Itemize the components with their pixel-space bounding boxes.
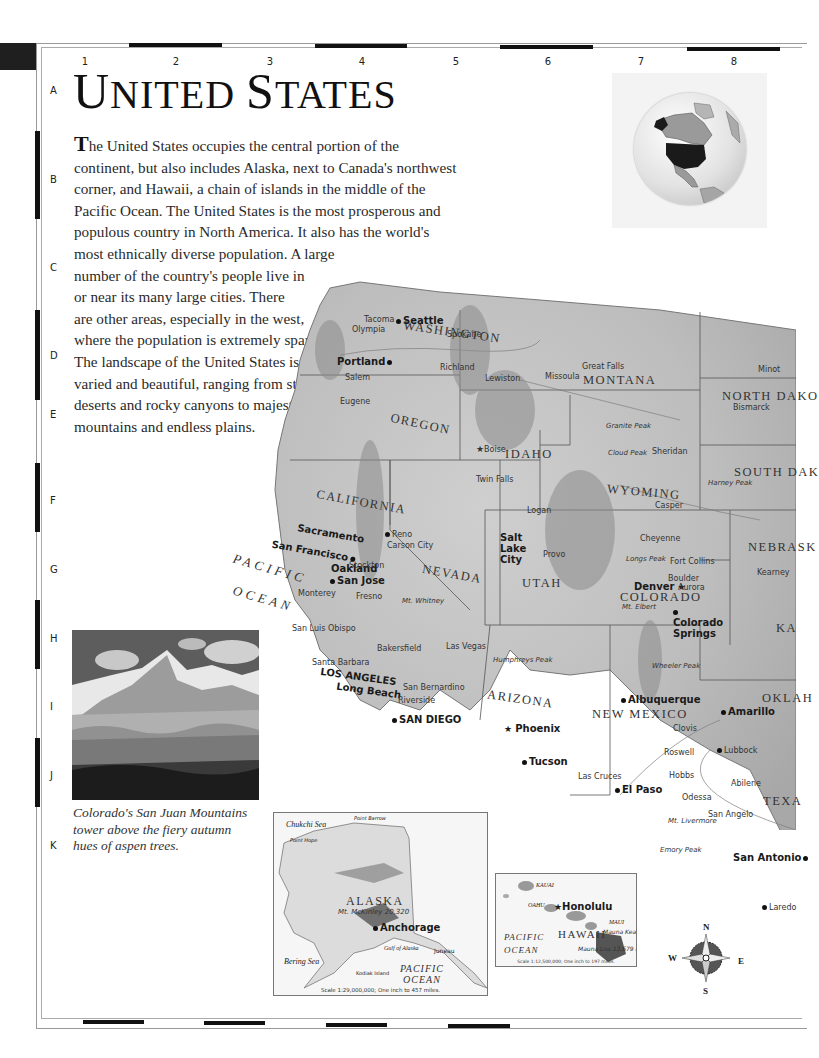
grid-row-c: C: [50, 262, 57, 273]
hawaii-inset-map: KAUAI OAHU ★Honolulu MAUI HAWAII PACIFIC…: [495, 873, 637, 967]
scale-bar-left-3: [35, 463, 40, 532]
city-abilene: Abilene: [731, 780, 761, 788]
grid-row-h: H: [50, 633, 58, 644]
alaska-scale-text: Scale 1:29,000,000; One inch to 457 mile…: [274, 987, 487, 993]
intro-line: populous country in North America. It al…: [74, 221, 454, 243]
city-olympia: Olympia: [352, 326, 385, 334]
bering-sea-label: Bering Sea: [284, 958, 319, 966]
page-title: UNITED STATES: [73, 66, 397, 116]
state-label-nebraska: NEBRASK: [748, 541, 817, 554]
grid-row-g: G: [50, 564, 58, 575]
city-great-falls: Great Falls: [582, 363, 624, 371]
city-odessa: Odessa: [682, 794, 712, 802]
scale-bar-bottom-1: [83, 1020, 144, 1024]
city-twin-falls: Twin Falls: [476, 476, 513, 484]
state-label-idaho: IDAHO: [505, 448, 553, 461]
peak-wheeler: Wheeler Peak: [652, 663, 700, 670]
peak-mt-elbert: Mt. Elbert: [622, 604, 656, 611]
point-barrow-label: Point Barrow: [354, 816, 386, 821]
city-salem: Salem: [345, 374, 370, 382]
city-bismarck: Bismarck: [733, 404, 770, 412]
city-amarillo: Amarillo: [721, 707, 775, 717]
city-riverside: Riverside: [398, 697, 435, 705]
city-lewiston: Lewiston: [485, 375, 520, 383]
san-juan-mountains-photo: [72, 630, 259, 800]
grid-column-8: 8: [724, 56, 744, 67]
city-casper: Casper: [655, 502, 683, 510]
city-fort-collins: Fort Collins: [670, 558, 715, 566]
locator-globe-panel: [612, 73, 767, 228]
grid-column-5: 5: [446, 56, 466, 67]
city-tacoma: Tacoma: [364, 316, 394, 324]
state-label-new-mexico: NEW MEXICO: [592, 708, 688, 721]
city-san-bernardino: San Bernardino: [403, 684, 465, 692]
scale-bar-top-2: [315, 44, 407, 48]
scale-bar-bottom-2: [204, 1021, 265, 1025]
city-logan: Logan: [527, 507, 551, 515]
kauai-label: KAUAI: [536, 882, 554, 888]
grid-row-a: A: [50, 85, 57, 96]
gulf-of-alaska-label: Gulf of Alaska: [384, 945, 419, 951]
city-colorado-springs: Colorado Springs: [673, 606, 729, 639]
hawaii-scale-text: Scale 1:12,500,000; One inch to 197 mile…: [496, 959, 636, 964]
grid-row-f: F: [50, 495, 56, 506]
intro-line: corner, and Hawaii, a chain of islands i…: [74, 178, 454, 200]
grid-row-b: B: [50, 174, 57, 185]
city-minot: Minot: [758, 366, 780, 374]
city-anchorage: Anchorage: [373, 923, 440, 933]
peak-mt-whitney: Mt. Whitney: [402, 598, 444, 605]
city-albuquerque: Albuquerque: [621, 695, 701, 705]
intro-line: The United States occupies the central p…: [74, 133, 454, 157]
city-sheridan: Sheridan: [652, 448, 688, 456]
alaska-pacific-ocean-label: PACIFIC OCEAN: [392, 963, 452, 985]
scale-bar-top-3: [500, 45, 593, 49]
city-monterey: Monterey: [298, 590, 336, 598]
grid-column-7: 7: [631, 56, 651, 67]
hawaii-pacific-ocean-label: PACIFICOCEAN: [504, 931, 554, 957]
intro-line: most ethnically diverse population. A la…: [74, 243, 454, 265]
state-label-utah: UTAH: [522, 577, 562, 590]
mauna-kea-label: Mauna Kea: [603, 929, 636, 935]
grid-row-i: I: [50, 701, 53, 712]
city-carson-city: Carson City: [387, 542, 433, 550]
compass-east-label: E: [738, 956, 744, 966]
city-spokane: Spokane: [447, 331, 481, 339]
city-provo: Provo: [543, 551, 565, 559]
city-roswell: Roswell: [664, 749, 694, 757]
peak-harney: Harney Peak: [708, 480, 752, 487]
globe-continents-icon: [634, 93, 746, 205]
city-cheyenne: Cheyenne: [640, 535, 680, 543]
city-santa-barbara: Santa Barbara: [312, 659, 369, 667]
city-richland: Richland: [440, 364, 475, 372]
peak-humphreys: Humphreys Peak: [493, 657, 552, 664]
maui-label: MAUI: [609, 919, 624, 925]
city-el-paso: El Paso: [615, 785, 662, 795]
peak-cloud: Cloud Peak: [608, 450, 647, 457]
compass-rose: N S W E: [676, 928, 736, 988]
compass-rose-icon: [676, 928, 736, 988]
city-fresno: Fresno: [356, 593, 382, 601]
kodiak-island-label: Kodiak Island: [356, 971, 389, 976]
scale-bar-left-5: [35, 738, 40, 807]
city-san-luis-obispo: San Luis Obispo: [292, 625, 356, 633]
grid-row-e: E: [50, 409, 56, 420]
city-seattle: Seattle: [396, 316, 444, 326]
locator-globe: [634, 93, 746, 205]
city-salt-lake-city: Salt Lake City: [500, 532, 544, 565]
state-label-texas: TEXA: [763, 795, 802, 808]
city-kearney: Kearney: [757, 569, 790, 577]
scale-bar-bottom-3: [326, 1023, 387, 1027]
state-label-colorado: COLORADO: [620, 591, 701, 604]
alaska-inset-map: Chukchi Sea Point Barrow Point Hope ALAS…: [273, 812, 488, 996]
city-clovis: Clovis: [673, 725, 697, 733]
city-eugene: Eugene: [340, 398, 370, 406]
city-tucson: Tucson: [522, 757, 568, 767]
city-laredo: Laredo: [762, 904, 796, 912]
grid-row-d: D: [50, 350, 58, 361]
city-aurora: Aurora: [678, 584, 705, 592]
grid-row-k: K: [50, 840, 57, 851]
city-san-antonio: San Antonio: [733, 853, 810, 863]
city-lubbock: Lubbock: [717, 747, 757, 755]
grid-column-6: 6: [538, 56, 558, 67]
